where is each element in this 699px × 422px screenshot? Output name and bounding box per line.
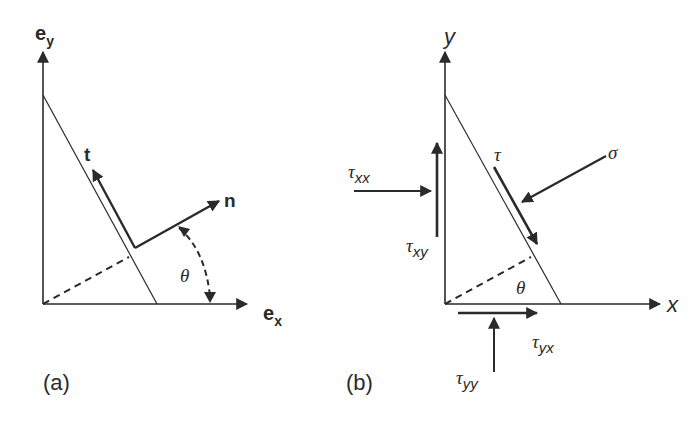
- ey-axis-label: ey: [35, 22, 54, 49]
- angle-arc-arrowhead-bottom: [204, 292, 216, 303]
- panel-a: ey ex t n θ (a): [35, 22, 282, 395]
- y-axis-label: y: [442, 24, 457, 49]
- tau-xx-label: τxx: [348, 161, 370, 186]
- tau-face-arrow: [494, 167, 537, 244]
- angle-label-a: θ: [180, 265, 189, 286]
- panel-a-caption: (a): [43, 370, 70, 395]
- sigma-label: σ: [608, 142, 618, 163]
- stress-element-diagram: ey ex t n θ (a) y x θ τ σ τxx τxy: [0, 0, 699, 422]
- tangent-vector-arrow: [93, 170, 135, 248]
- ex-axis-label: ex: [263, 302, 282, 329]
- normal-vector-arrow: [135, 201, 219, 248]
- normal-label: n: [224, 190, 236, 211]
- panel-b: y x θ τ σ τxx τxy τyx τyy (b): [346, 24, 679, 395]
- panel-b-caption: (b): [346, 370, 373, 395]
- tau-xy-label: τxy: [406, 235, 429, 260]
- angle-arc-arrowhead-top: [178, 226, 190, 237]
- normal-dashed-line: [43, 257, 129, 304]
- x-axis-label: x: [666, 292, 679, 317]
- tau-yy-label: τyy: [456, 367, 479, 392]
- sigma-arrow: [522, 156, 606, 202]
- angle-label-b: θ: [516, 277, 525, 298]
- tau-face-label: τ: [494, 144, 502, 165]
- tangent-label: t: [84, 144, 91, 165]
- tau-yx-label: τyx: [532, 331, 554, 356]
